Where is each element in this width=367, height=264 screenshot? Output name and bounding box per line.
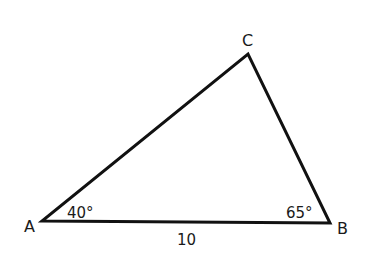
angle-label-b: 65°	[286, 204, 313, 222]
vertex-label-b: B	[337, 219, 348, 238]
side-label-ab: 10	[177, 231, 196, 249]
triangle-diagram: A B C 40° 65° 10	[0, 0, 367, 264]
triangle-abc	[42, 54, 330, 223]
vertex-label-c: C	[242, 31, 253, 50]
vertex-label-a: A	[24, 217, 35, 236]
angle-label-a: 40°	[67, 204, 94, 222]
triangle-canvas: A B C 40° 65° 10	[0, 0, 367, 264]
